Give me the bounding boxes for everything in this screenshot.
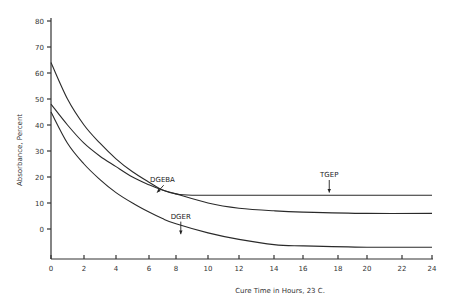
x-tick-label: 22 (398, 265, 407, 273)
x-tick-label: 0 (49, 265, 53, 273)
x-tick-label: 20 (363, 265, 372, 273)
x-tick-label: 6 (147, 265, 152, 273)
x-tick-label: 14 (270, 265, 279, 273)
absorbance-chart: 01020304050607080 024681012141618202224 … (0, 0, 455, 306)
y-tick-label: 60 (35, 70, 44, 78)
axes (51, 18, 433, 259)
x-tick-label: 10 (204, 265, 213, 273)
y-tick-label: 50 (35, 96, 44, 104)
y-tick-label: 20 (35, 174, 44, 182)
y-ticks: 01020304050607080 (35, 18, 51, 234)
curve-dger (51, 112, 432, 247)
x-tick-label: 8 (174, 265, 178, 273)
x-tick-label: 24 (428, 265, 437, 273)
arrowhead-icon (328, 189, 331, 193)
curve-dgeba (51, 104, 432, 213)
x-tick-label: 4 (114, 265, 119, 273)
y-tick-label: 10 (35, 200, 44, 208)
y-tick-label: 80 (35, 18, 44, 26)
arrowhead-icon (179, 231, 182, 235)
y-tick-label: 70 (35, 44, 44, 52)
curve-label-dger: DGER (171, 213, 191, 221)
y-tick-label: 30 (35, 148, 44, 156)
y-axis-title: Absorbance, Percent (16, 114, 24, 186)
x-tick-label: 12 (235, 265, 244, 273)
curves (51, 63, 432, 248)
x-tick-label: 2 (82, 265, 86, 273)
curve-label-dgeba: DGEBA (150, 176, 175, 184)
x-tick-label: 16 (299, 265, 308, 273)
curve-tgep (51, 63, 432, 196)
y-tick-label: 40 (35, 122, 44, 130)
x-axis-title: Cure Time in Hours, 23 C. (235, 287, 325, 295)
y-tick-label: 0 (40, 226, 44, 234)
x-ticks: 024681012141618202224 (49, 255, 437, 273)
curve-label-tgep: TGEP (319, 171, 338, 179)
x-tick-label: 18 (334, 265, 343, 273)
